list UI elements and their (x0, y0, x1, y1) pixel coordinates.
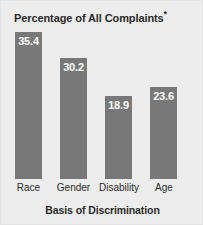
bar-value-gender: 30.2 (60, 61, 87, 73)
bar-disability[interactable]: 18.9 (105, 96, 132, 179)
bar-value-age: 23.6 (150, 90, 177, 102)
category-label-age: Age (146, 182, 182, 193)
bar-race[interactable]: 35.4 (15, 32, 42, 179)
bar-age[interactable]: 23.6 (150, 87, 177, 179)
bar-chart-figure: Percentage of All Complaints* 35.4 30.2 … (0, 0, 203, 225)
bar-value-race: 35.4 (15, 35, 42, 47)
plot-area: 35.4 30.2 18.9 23.6 (1, 1, 203, 179)
category-label-gender: Gender (51, 182, 96, 193)
category-label-race: Race (9, 182, 48, 193)
bar-value-disability: 18.9 (105, 99, 132, 111)
x-axis-label: Basis of Discrimination (1, 204, 203, 216)
category-label-disability: Disability (97, 182, 141, 193)
bar-gender[interactable]: 30.2 (60, 58, 87, 179)
